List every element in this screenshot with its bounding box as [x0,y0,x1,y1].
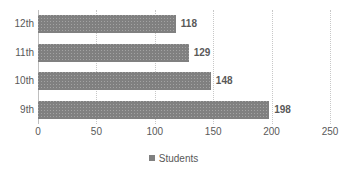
bar-value-11th: 129 [189,44,211,62]
bar-9th[interactable] [38,101,269,119]
gridline-250 [330,10,331,124]
bar-value-9th: 198 [269,101,291,119]
y-axis-label-10th: 10th [15,67,34,96]
bar-value-12th: 118 [176,15,197,33]
x-tick-0: 0 [35,126,41,137]
bar-row: 129 [38,39,330,68]
bar-12th[interactable] [38,15,176,33]
bar-value-10th: 148 [211,72,233,90]
x-axis-tick-labels: 0 50 100 150 200 250 [38,126,330,140]
legend-item-students[interactable]: Students [149,153,198,164]
bar-row: 148 [38,67,330,96]
x-tick-150: 150 [205,126,222,137]
x-tick-100: 100 [146,126,163,137]
x-tick-50: 50 [91,126,102,137]
bar-10th[interactable] [38,72,211,90]
y-axis-category-labels: 12th 11th 10th 9th [0,10,34,124]
legend-swatch-icon [149,155,155,161]
y-axis-label-12th: 12th [15,10,34,39]
x-tick-250: 250 [322,126,339,137]
bars-layer: 118 129 148 198 [38,10,330,124]
legend-label-students: Students [159,153,198,164]
bar-row: 118 [38,10,330,39]
y-axis-label-9th: 9th [20,96,34,125]
x-tick-200: 200 [263,126,280,137]
bar-row: 198 [38,96,330,125]
plot-area: 118 129 148 198 [38,10,330,124]
y-axis-label-11th: 11th [15,39,34,68]
chart-legend: Students [0,150,347,166]
bar-11th[interactable] [38,44,189,62]
bar-chart: 12th 11th 10th 9th 118 129 148 [0,0,347,172]
